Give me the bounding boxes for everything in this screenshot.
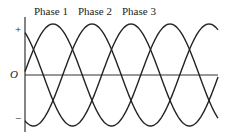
minus-tick: − [15, 113, 21, 124]
plus-tick: + [15, 24, 21, 35]
phase1-label: Phase 1 [34, 6, 68, 17]
phase3-label: Phase 3 [122, 6, 156, 17]
three-phase-diagram: Phase 1 Phase 2 Phase 3 + O − [0, 0, 231, 139]
phase2-label: Phase 2 [78, 6, 112, 17]
origin-label: O [10, 69, 18, 80]
waveform-plot [0, 0, 231, 139]
